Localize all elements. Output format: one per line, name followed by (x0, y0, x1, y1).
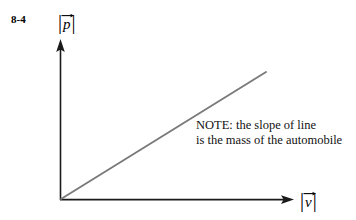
y-axis-label: | p | (58, 12, 76, 32)
note-line-1: NOTE: the slope of line (196, 118, 342, 133)
figure-canvas: 8-4 | p | | v | (0, 0, 356, 220)
note-annotation: NOTE: the slope of line is the mass of t… (196, 118, 342, 147)
magnitude-bar-right-y: | (72, 12, 76, 32)
magnitude-bar-right-x: | (313, 190, 317, 210)
plot-area (0, 0, 356, 220)
vector-p-symbol: p (62, 17, 72, 32)
vector-p-letter: p (63, 16, 71, 32)
note-line-2: is the mass of the automobile (196, 133, 342, 148)
vector-v-letter: v (305, 194, 312, 210)
vector-v-symbol: v (304, 195, 313, 210)
x-axis-label: | v | (300, 190, 317, 210)
